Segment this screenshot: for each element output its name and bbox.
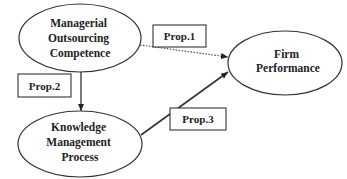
node-label-line: Competence bbox=[50, 47, 111, 60]
prop3-label-box: Prop.3 bbox=[170, 108, 226, 130]
node-label-line: Management bbox=[46, 136, 111, 149]
node-label-line: Knowledge bbox=[51, 121, 106, 134]
svg-text:Managerial Outsourcing: Managerial Outsourcing Competence bbox=[48, 17, 112, 60]
node-managerial-outsourcing-competence: Managerial Outsourcing Competence bbox=[19, 4, 141, 72]
node-label-line: Process bbox=[62, 151, 99, 163]
prop1-label: Prop.1 bbox=[164, 30, 195, 42]
node-label-line: Outsourcing bbox=[48, 32, 109, 45]
prop2-label-box: Prop.2 bbox=[18, 74, 71, 97]
prop2-label: Prop.2 bbox=[29, 80, 61, 92]
prop1-label-box: Prop.1 bbox=[153, 25, 206, 47]
research-model-diagram: Managerial Outsourcing Competence Firm P… bbox=[0, 0, 347, 179]
node-label-line: Performance bbox=[256, 62, 320, 74]
node-label-line: Firm bbox=[274, 48, 299, 60]
node-knowledge-management-process: Knowledge Management Process bbox=[18, 111, 142, 177]
prop3-label: Prop.3 bbox=[182, 113, 214, 125]
node-label-line: Managerial bbox=[50, 17, 107, 30]
node-firm-performance: Firm Performance bbox=[228, 31, 342, 95]
